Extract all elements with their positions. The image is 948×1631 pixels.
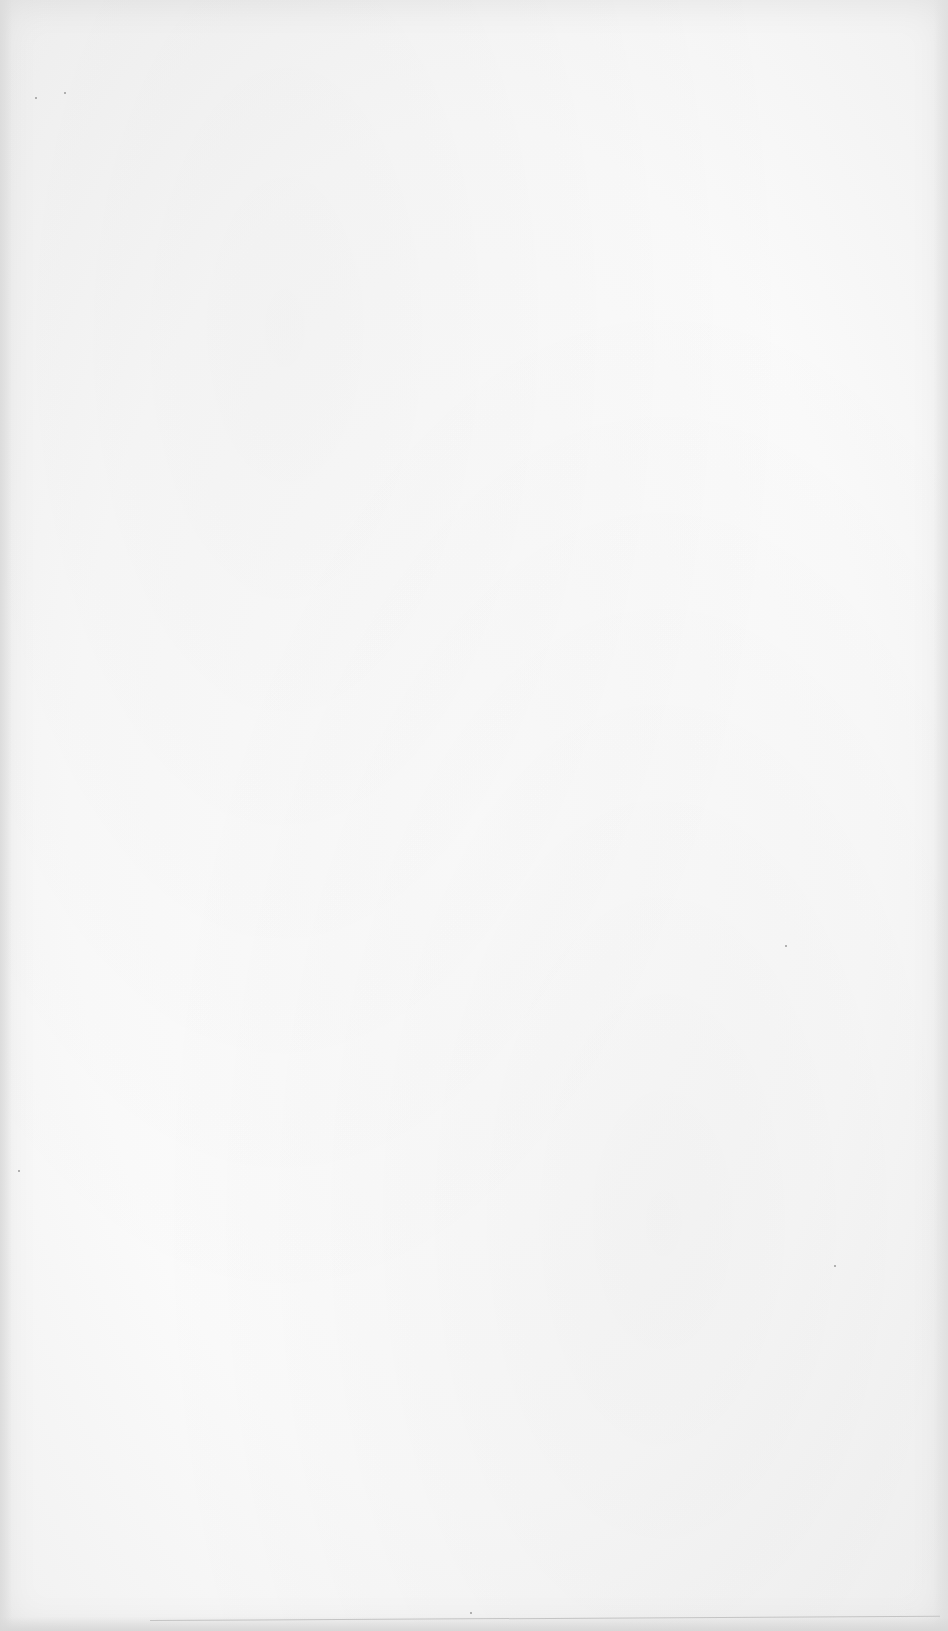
paper-speck [18, 1170, 20, 1172]
page-content [60, 60, 888, 1571]
blank-paper-page [0, 0, 948, 1631]
page-edge-right [934, 0, 948, 1631]
page-edge-left [0, 0, 12, 1631]
paper-speck [470, 1612, 472, 1614]
paper-speck [35, 97, 37, 99]
